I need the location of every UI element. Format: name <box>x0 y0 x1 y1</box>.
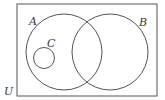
set-c-label: C <box>47 37 56 50</box>
venn-diagram: A B C U <box>0 0 165 100</box>
set-a-label: A <box>28 15 37 28</box>
set-c-circle <box>34 48 55 69</box>
set-b-circle <box>72 14 148 90</box>
universe-label: U <box>4 85 14 98</box>
set-b-label: B <box>138 16 147 29</box>
set-a-circle <box>26 14 102 90</box>
